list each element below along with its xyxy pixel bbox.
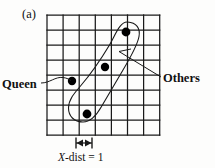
panel-label: (a)	[22, 8, 36, 21]
data-point-queen	[68, 77, 76, 85]
others-label: Others	[163, 72, 200, 85]
figure-panel-a: (a) Queen Others X-dist = 1	[0, 0, 215, 168]
data-point-other	[83, 110, 92, 119]
dimension-arrowhead-right	[85, 139, 92, 146]
others-leader-line	[119, 52, 161, 78]
x-dist-dimension-marker	[76, 138, 92, 149]
grid	[47, 15, 160, 135]
queen-label: Queen	[2, 78, 37, 91]
data-point-other	[101, 63, 109, 71]
x-dist-label-text: -dist = 1	[65, 151, 103, 163]
data-point-other	[122, 28, 131, 37]
x-dist-label: X-dist = 1	[58, 152, 103, 164]
dimension-arrowhead-left	[77, 139, 84, 146]
x-dist-label-variable: X	[58, 151, 65, 163]
queen-leader-line	[41, 77, 71, 83]
others-leader-tick	[119, 49, 131, 52]
